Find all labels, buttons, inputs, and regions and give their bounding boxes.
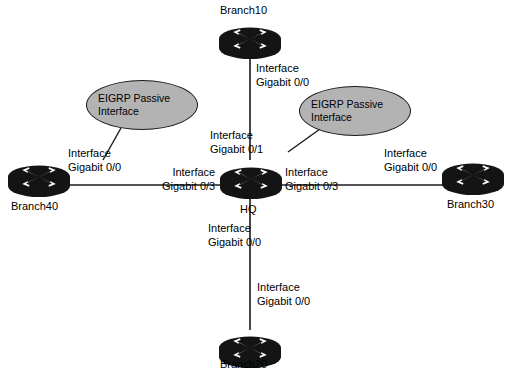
interface-label-line1: Interface	[68, 147, 121, 161]
router-label-branch30: Branch30	[447, 198, 494, 211]
interface-label-hq-g03-right: Interface Gigabit 0/3	[285, 166, 338, 193]
callout-eigrp-passive-left: EIGRP Passive Interface	[86, 80, 198, 130]
router-branch30[interactable]	[440, 156, 506, 196]
router-icon	[218, 160, 284, 200]
network-diagram: Branch10 Interface Gigabit 0/0 HQ Interf…	[0, 0, 508, 373]
interface-label-line1: Interface	[210, 129, 263, 143]
router-branch10[interactable]	[217, 20, 283, 60]
router-label-hq: HQ	[240, 203, 257, 216]
interface-label-hq-g00-down: Interface Gigabit 0/0	[208, 222, 261, 249]
interface-label-hq-g01: Interface Gigabit 0/1	[210, 129, 263, 156]
interface-label-line1: Interface	[208, 222, 261, 236]
interface-label-line2: Gigabit 0/0	[256, 76, 309, 90]
interface-label-line2: Gigabit 0/3	[162, 180, 215, 194]
router-label-branch40: Branch40	[11, 200, 58, 213]
interface-label-hq-g03-left: Interface Gigabit 0/3	[162, 166, 215, 193]
interface-label-line1: Interface	[257, 281, 310, 295]
router-label-branch10: Branch10	[220, 4, 267, 17]
interface-label-line2: Gigabit 0/0	[384, 161, 437, 175]
callout-line1: EIGRP Passive	[311, 98, 403, 111]
interface-label-line2: Gigabit 0/0	[68, 161, 121, 175]
interface-label-line1: Interface	[285, 166, 338, 180]
interface-label-branch40-g00: Interface Gigabit 0/0	[68, 147, 121, 174]
router-icon	[6, 158, 72, 198]
callout-text: EIGRP Passive Interface	[98, 92, 190, 118]
router-icon	[440, 156, 506, 196]
router-hq[interactable]	[218, 160, 284, 200]
interface-label-line2: Gigabit 0/0	[257, 295, 310, 309]
callout-text: EIGRP Passive Interface	[311, 98, 403, 124]
interface-label-line1: Interface	[256, 62, 309, 76]
interface-label-line1: Interface	[162, 166, 215, 180]
interface-label-branch20-g00: Interface Gigabit 0/0	[257, 281, 310, 308]
interface-label-line1: Interface	[384, 147, 437, 161]
callout-line2: Interface	[311, 111, 403, 124]
router-icon	[217, 20, 283, 60]
leader-line-right	[288, 129, 320, 152]
interface-label-line2: Gigabit 0/1	[210, 143, 263, 157]
router-label-branch20: Branch20	[220, 358, 267, 371]
callout-line1: EIGRP Passive	[98, 92, 190, 105]
router-branch40[interactable]	[6, 158, 72, 198]
interface-label-line2: Gigabit 0/0	[208, 236, 261, 250]
callout-eigrp-passive-right: EIGRP Passive Interface	[299, 86, 411, 136]
interface-label-branch30-g00: Interface Gigabit 0/0	[384, 147, 437, 174]
interface-label-branch10-g00: Interface Gigabit 0/0	[256, 62, 309, 89]
interface-label-line2: Gigabit 0/3	[285, 180, 338, 194]
callout-line2: Interface	[98, 105, 190, 118]
